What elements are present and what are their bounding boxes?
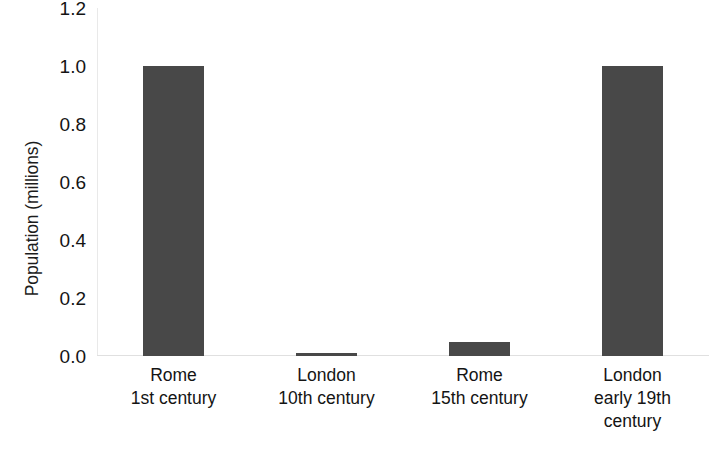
x-axis-category-labels: Rome1st centuryLondon10th centuryRome15t… <box>97 364 709 464</box>
y-axis-tick-label: 0.4 <box>22 231 86 250</box>
bar-chart: Population (millions) 0.00.20.40.60.81.0… <box>0 0 723 470</box>
y-axis-tick-label: 0.0 <box>22 347 86 366</box>
y-axis-tick-label: 1.2 <box>22 0 86 18</box>
x-axis-label-line: London <box>250 364 403 387</box>
bar[interactable] <box>602 66 663 356</box>
y-axis-tick-label: 0.8 <box>22 115 86 134</box>
bars-layer <box>97 8 709 356</box>
x-axis-category-label: London10th century <box>250 364 403 410</box>
y-axis-tick-label: 0.2 <box>22 289 86 308</box>
bar[interactable] <box>143 66 204 356</box>
bar[interactable] <box>449 342 510 357</box>
x-axis-label-line: 15th century <box>403 387 556 410</box>
x-axis-category-label: Rome15th century <box>403 364 556 410</box>
x-axis-label-line: 10th century <box>250 387 403 410</box>
x-axis-label-line: 1st century <box>97 387 250 410</box>
y-axis-tick-label: 0.6 <box>22 173 86 192</box>
x-axis-label-line: Rome <box>97 364 250 387</box>
x-axis-category-label: Londonearly 19thcentury <box>556 364 709 433</box>
plot-area <box>97 8 709 356</box>
x-axis-category-label: Rome1st century <box>97 364 250 410</box>
bar[interactable] <box>296 353 357 356</box>
y-axis-tick-labels: 0.00.20.40.60.81.01.2 <box>22 0 86 470</box>
x-axis-label-line: early 19th <box>556 387 709 410</box>
x-axis-label-line: century <box>556 410 709 433</box>
x-axis-label-line: London <box>556 364 709 387</box>
x-axis-label-line: Rome <box>403 364 556 387</box>
y-axis-tick-label: 1.0 <box>22 57 86 76</box>
